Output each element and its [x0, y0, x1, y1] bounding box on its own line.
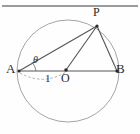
segment-radius-op [66, 26, 97, 70]
segment-chord-ap [19, 26, 97, 71]
point-p-dot [95, 24, 98, 27]
geometry-figure: A B O P θ 1 [0, 0, 140, 134]
label-point-p: P [93, 6, 100, 18]
point-a-dot [17, 69, 20, 72]
label-angle-theta: θ [33, 55, 38, 65]
dashed-arc-ao [20, 72, 66, 79]
label-point-o: O [61, 72, 70, 84]
label-point-a: A [6, 62, 15, 75]
label-point-b: B [116, 62, 125, 75]
label-radius-length: 1 [45, 73, 51, 84]
